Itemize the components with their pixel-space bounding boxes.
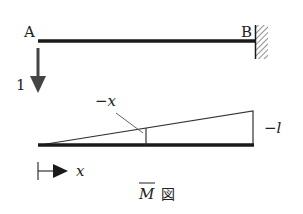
beam-end-label-a: A bbox=[23, 23, 35, 41]
fixed-support bbox=[256, 25, 269, 59]
moment-diagram bbox=[38, 111, 254, 145]
x-axis-label: x bbox=[76, 162, 85, 180]
cantilever-diagram: A B 1 −x −l x M 図 bbox=[0, 0, 303, 214]
leader-line bbox=[116, 113, 143, 133]
diagram-title-symbol: M bbox=[138, 185, 155, 203]
diagram-title-suffix: 図 bbox=[161, 186, 175, 202]
beam-end-label-b: B bbox=[241, 23, 252, 41]
moment-value-at-end-label: −l bbox=[264, 119, 282, 137]
moment-value-at-x-label: −x bbox=[95, 92, 117, 110]
load-label: 1 bbox=[16, 76, 26, 94]
unit-load-arrow bbox=[30, 48, 46, 93]
x-axis-arrow bbox=[38, 162, 68, 180]
